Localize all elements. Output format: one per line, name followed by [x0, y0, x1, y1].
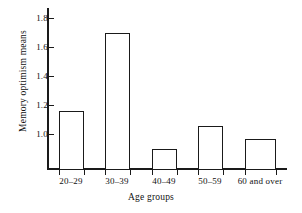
bar-50-59: [198, 126, 223, 169]
y-axis-tick-label: 1.0: [8, 130, 48, 139]
y-axis-tick-label: 1.4: [8, 72, 48, 81]
y-axis-tick-label: 1.2: [8, 101, 48, 110]
x-axis-tick: [223, 170, 224, 175]
bar-chart: 1.0 1.2 1.4 1.6 1.8 20–29 30–39 40–49 50…: [0, 0, 302, 213]
x-axis-tick: [130, 170, 131, 175]
y-axis-tick: [49, 105, 54, 106]
y-axis-title: Memory optimism means: [18, 6, 28, 156]
x-axis-tick-label: 20–29: [59, 176, 83, 186]
y-axis-line: [47, 8, 49, 170]
bar-60-and-over: [245, 139, 276, 169]
bar-40-49: [152, 149, 177, 169]
y-axis-tick: [49, 18, 54, 19]
x-axis-tick: [177, 170, 178, 175]
x-axis-tick: [59, 170, 60, 175]
y-axis-tick-label: 1.8: [8, 14, 48, 23]
x-axis-tick: [276, 170, 277, 175]
bar-20-29: [59, 111, 84, 169]
x-axis-tick: [105, 170, 106, 175]
y-axis-tick: [49, 76, 54, 77]
bar-30-39: [105, 33, 130, 169]
x-axis-tick: [198, 170, 199, 175]
y-axis-tick: [49, 47, 54, 48]
x-axis-tick-label: 50–59: [198, 176, 222, 186]
x-axis-tick: [245, 170, 246, 175]
y-axis-tick: [49, 134, 54, 135]
x-axis-tick: [84, 170, 85, 175]
y-axis-tick-label: 1.6: [8, 43, 48, 52]
x-axis-title: Age groups: [0, 192, 302, 202]
x-axis-tick: [152, 170, 153, 175]
x-axis-tick-label: 40–49: [152, 176, 176, 186]
x-axis-tick-label: 60 and over: [238, 176, 283, 186]
x-axis-tick-label: 30–39: [105, 176, 129, 186]
